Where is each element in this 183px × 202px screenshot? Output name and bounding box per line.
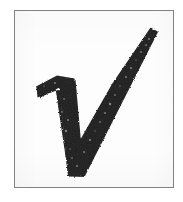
ink-speckle [65, 130, 67, 132]
ink-speckle [94, 130, 96, 132]
ink-speckle [125, 76, 127, 78]
check-mark-drawing [0, 0, 183, 202]
ink-speckle [119, 85, 121, 87]
ink-speckle [47, 93, 49, 95]
ink-speckle [63, 98, 65, 100]
ink-speckle [130, 67, 132, 69]
ink-speckle [54, 82, 56, 84]
ink-speckle [114, 94, 116, 96]
ink-speckle [83, 151, 85, 153]
ink-speckle [69, 148, 71, 150]
ink-speckle [135, 59, 137, 61]
ink-speckle [61, 111, 63, 113]
ink-speckle [71, 157, 73, 159]
ink-speckle [89, 139, 91, 141]
check-mark-icon [0, 0, 183, 202]
ink-speckle [99, 121, 101, 123]
ink-speckle [104, 112, 106, 114]
ink-speckle [148, 38, 150, 40]
ink-speckle [140, 51, 142, 53]
check-mark-ascender [71, 28, 159, 177]
screenshot-canvas [0, 0, 183, 202]
ink-speckle [145, 44, 147, 46]
ink-speckle [76, 165, 78, 167]
ink-speckle [109, 103, 111, 105]
ink-speckle [43, 85, 45, 87]
ink-speckle [67, 119, 69, 121]
